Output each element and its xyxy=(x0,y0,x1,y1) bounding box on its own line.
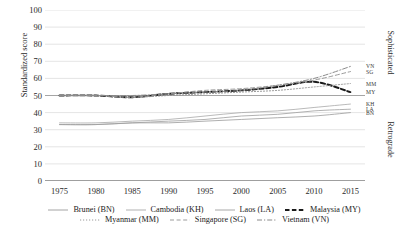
y-tick-100: 100 xyxy=(29,6,42,15)
x-tick-2015: 2015 xyxy=(342,186,359,196)
legend-swatch-KH-icon xyxy=(125,206,147,214)
legend-swatch-BN-icon xyxy=(47,206,69,214)
x-tick-1990: 1990 xyxy=(160,186,177,196)
x-tick-1975: 1975 xyxy=(51,186,68,196)
y-tick-0: 0 xyxy=(38,177,42,186)
y-tick-80: 80 xyxy=(34,40,43,49)
y-tick-50: 50 xyxy=(34,91,43,100)
legend-swatch-SG-icon xyxy=(169,216,191,224)
right-axis-band-retrograde: Retrograde xyxy=(386,90,395,190)
y-tick-10: 10 xyxy=(34,160,43,169)
plot-svg xyxy=(45,10,365,181)
legend-label-VN: Vietnam (VN) xyxy=(282,215,329,224)
legend-label-MM: Myanmar (MM) xyxy=(105,215,159,224)
legend-swatch-MM-icon xyxy=(79,216,101,224)
y-tick-20: 20 xyxy=(34,143,43,152)
x-tick-1985: 1985 xyxy=(124,186,141,196)
x-tick-2005: 2005 xyxy=(269,186,286,196)
legend-label-SG: Singapore (SG) xyxy=(195,215,246,224)
legend-label-KH: Cambodia (KH) xyxy=(151,205,204,214)
end-label-BN: BN xyxy=(366,110,374,116)
legend-swatch-LA-icon xyxy=(214,206,236,214)
x-tick-2010: 2010 xyxy=(306,186,323,196)
legend-item-MM[interactable]: Myanmar (MM) xyxy=(79,215,159,224)
legend-item-KH[interactable]: Cambodia (KH) xyxy=(125,205,204,214)
chart-legend: Brunei (BN)Cambodia (KH)Laos (LA)Malaysi… xyxy=(0,205,418,246)
legend-item-VN[interactable]: Vietnam (VN) xyxy=(256,215,329,224)
end-label-SG: SG xyxy=(366,69,374,75)
x-tick-1995: 1995 xyxy=(197,186,214,196)
legend-label-LA: Laos (LA) xyxy=(240,205,274,214)
series-line-SG xyxy=(60,72,351,98)
legend-label-BN: Brunei (BN) xyxy=(73,205,114,214)
y-tick-60: 60 xyxy=(34,74,43,83)
x-tick-1980: 1980 xyxy=(87,186,104,196)
x-tick-2000: 2000 xyxy=(233,186,250,196)
legend-item-LA[interactable]: Laos (LA) xyxy=(214,205,274,214)
plot-area xyxy=(45,10,365,181)
legend-swatch-VN-icon xyxy=(256,216,278,224)
chart-figure: Standardized score 010203040506070809010… xyxy=(0,0,418,246)
y-tick-70: 70 xyxy=(34,57,43,66)
legend-item-SG[interactable]: Singapore (SG) xyxy=(169,215,246,224)
legend-label-MY: Malaysia (MY) xyxy=(310,205,361,214)
y-tick-90: 90 xyxy=(34,23,43,32)
series-line-MY xyxy=(60,82,351,98)
legend-item-BN[interactable]: Brunei (BN) xyxy=(47,205,114,214)
y-tick-30: 30 xyxy=(34,125,43,134)
x-axis-tick-labels: 197519801985199019952000200520102015 xyxy=(0,186,418,202)
end-label-MY: MY xyxy=(366,89,375,95)
legend-item-MY[interactable]: Malaysia (MY) xyxy=(284,205,361,214)
end-label-MM: MM xyxy=(366,81,376,87)
legend-row-1: Brunei (BN)Cambodia (KH)Laos (LA)Malaysi… xyxy=(47,205,370,214)
series-line-KH xyxy=(60,104,351,123)
right-axis-band-sophisticated: Sophisticated xyxy=(386,3,395,103)
legend-row-2: Myanmar (MM)Singapore (SG)Vietnam (VN) xyxy=(79,215,339,224)
legend-swatch-MY-icon xyxy=(284,206,306,214)
y-tick-40: 40 xyxy=(34,108,43,117)
